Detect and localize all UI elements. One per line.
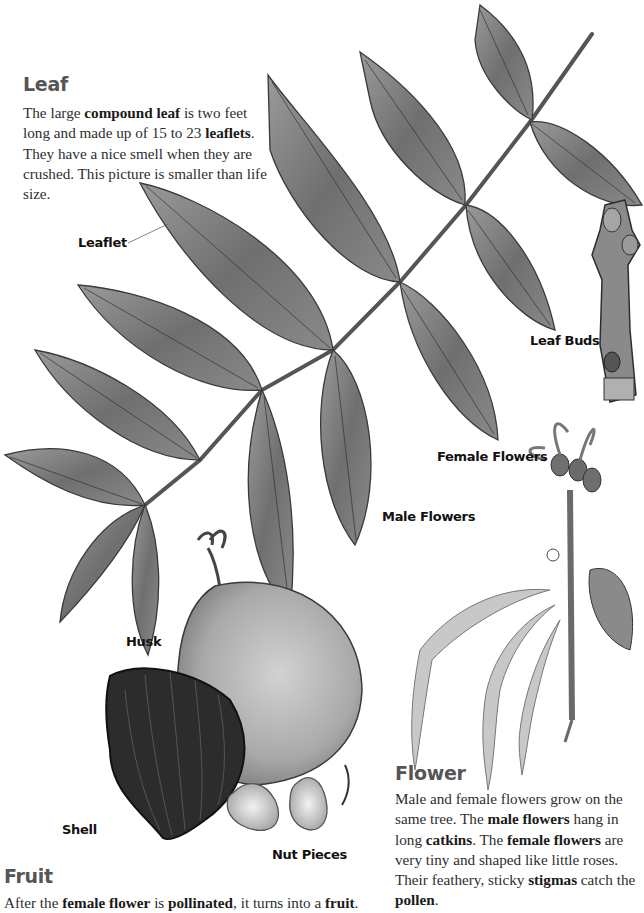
flower-description: Male and female flowers grow on the same… (395, 789, 644, 911)
fruit-description: After the female flower is pollinated, i… (4, 893, 424, 913)
flower-heading: Flower (395, 762, 466, 784)
leaf-heading: Leaf (23, 73, 68, 95)
text-run: , it turns into a (233, 894, 325, 911)
leaf-description: The large compound leaf is two feet long… (23, 103, 273, 204)
term-male-flowers: male flowers (488, 810, 570, 827)
label-leaflet: Leaflet (78, 235, 127, 250)
text-run: catch the (577, 871, 635, 888)
nut-pieces (227, 778, 327, 831)
text-run: is (150, 894, 168, 911)
label-leaf-buds: Leaf Buds (530, 333, 600, 348)
term-female-flowers: female flowers (507, 831, 601, 848)
leaflet-pointer-line (128, 224, 168, 243)
term-pollen: pollen (395, 891, 435, 908)
label-nut-pieces: Nut Pieces (272, 847, 347, 862)
term-pollinated: pollinated (168, 894, 233, 911)
female-flower-cluster (530, 424, 633, 742)
male-catkins (412, 589, 560, 790)
fruit-heading: Fruit (4, 865, 53, 887)
term-female-flower: female flower (62, 894, 150, 911)
text-run: . The (472, 831, 507, 848)
term-leaflets: leaflets (205, 124, 251, 141)
label-female-flowers: Female Flowers (437, 449, 547, 464)
term-fruit: fruit (325, 894, 355, 911)
walnut-shell (106, 668, 244, 839)
label-male-flowers: Male Flowers (382, 509, 475, 524)
label-shell: Shell (62, 822, 97, 837)
text-run: The large (23, 104, 84, 121)
term-compound-leaf: compound leaf (84, 104, 180, 121)
text-run: . (435, 891, 439, 908)
text-run: . (355, 894, 359, 911)
text-run: After the (4, 894, 62, 911)
term-stigmas: stigmas (528, 871, 577, 888)
term-catkins: catkins (426, 831, 472, 848)
label-husk: Husk (126, 634, 161, 649)
leaf-bud-twig (592, 200, 640, 402)
